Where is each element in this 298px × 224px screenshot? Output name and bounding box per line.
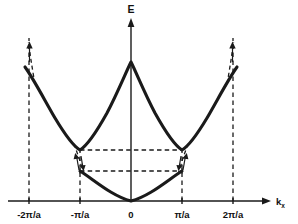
y-axis-label: E [127, 3, 134, 15]
x-tick-label-minus-pi-over-a: -π/a [71, 209, 90, 220]
band-structure-plot: -2π/a -π/a 0 π/a 2π/a E kx [0, 0, 298, 224]
x-tick-label-plus-2pi-over-a: 2π/a [223, 209, 244, 220]
x-tick-label-zero: 0 [128, 209, 133, 220]
x-tick-label-plus-pi-over-a: π/a [174, 209, 190, 220]
x-tick-label-minus-2pi-over-a: -2π/a [17, 209, 41, 220]
plot-background [0, 0, 298, 224]
x-axis-label-subscript: x [281, 202, 285, 209]
band-structure-figure: -2π/a -π/a 0 π/a 2π/a E kx [0, 0, 298, 224]
